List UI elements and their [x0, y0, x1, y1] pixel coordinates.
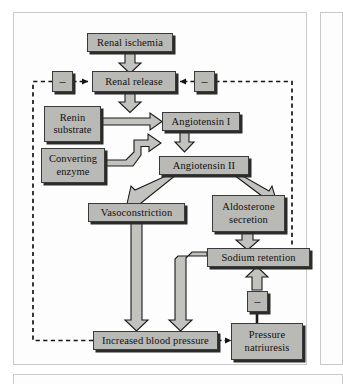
node-increased-blood-pressure[interactable]: Increased blood pressure: [93, 331, 218, 350]
node-renin-substrate-line1: Renin: [60, 112, 86, 125]
bottom-panel-edge: [13, 374, 343, 384]
node-angiotensin-ii[interactable]: Angiotensin II: [159, 156, 249, 175]
node-vasoconstriction[interactable]: Vasoconstriction: [88, 203, 185, 222]
side-panel: [320, 12, 343, 365]
node-renal-release[interactable]: Renal release: [92, 71, 176, 92]
node-aldosterone-line1: Aldosterone: [222, 201, 274, 214]
node-aldosterone-line2: secretion: [229, 214, 268, 227]
node-renin-substrate[interactable]: Renin substrate: [44, 106, 101, 142]
node-minus-right[interactable]: –: [194, 71, 215, 92]
node-natriuresis-line2: natriuresis: [245, 342, 290, 355]
node-minus-left[interactable]: –: [52, 71, 73, 92]
node-natriuresis-line1: Pressure: [249, 329, 285, 342]
node-renal-ischemia[interactable]: Renal ischemia: [87, 33, 173, 52]
node-converting-enzyme-line2: enzyme: [56, 166, 89, 179]
node-pressure-natriuresis[interactable]: Pressure natriuresis: [231, 323, 303, 360]
node-converting-enzyme[interactable]: Converting enzyme: [41, 148, 105, 183]
diagram-panel: [13, 12, 307, 365]
node-aldosterone-secretion[interactable]: Aldosterone secretion: [212, 195, 285, 232]
node-angiotensin-i[interactable]: Angiotensin I: [162, 112, 240, 131]
node-renin-substrate-line2: substrate: [53, 124, 91, 137]
node-sodium-retention[interactable]: Sodium retention: [207, 248, 310, 267]
node-minus-bottom[interactable]: –: [247, 291, 268, 312]
node-converting-enzyme-line1: Converting: [49, 153, 97, 166]
